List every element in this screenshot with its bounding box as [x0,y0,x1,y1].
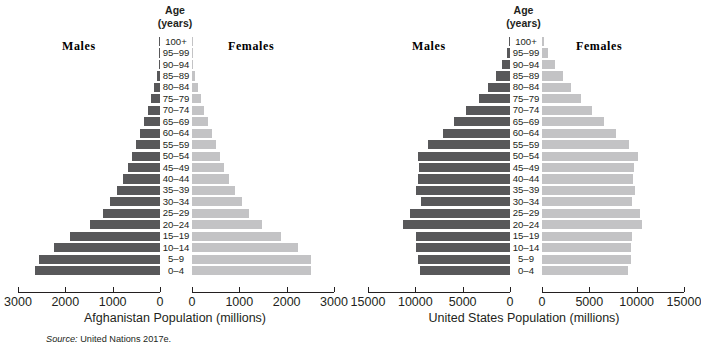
x-tick-label-right-2000: 2000 [273,295,301,309]
bar-male-25-29 [103,209,160,218]
bar-male-0-4 [420,266,510,275]
bar-male-35-39 [416,186,510,195]
bar-male-5-9 [39,255,160,264]
pyramid-row: 90–94 [350,59,697,70]
pyramid-row: 90–94 [0,59,350,70]
x-axis-title-united-states: United States Population (millions) [428,311,619,325]
age-group-label: 65–69 [513,116,540,128]
bar-male-40-44 [123,174,160,183]
x-tick [287,287,288,292]
bar-female-70-74 [542,106,592,115]
age-group-label: 70–74 [513,104,540,116]
pyramid-row: 20–24 [350,219,697,230]
x-tick-label-left-15000: 15000 [351,295,386,309]
x-tick-label-left-1000: 1000 [99,295,127,309]
age-group-label: 75–79 [513,93,540,105]
age-group-label: 25–29 [513,207,540,219]
age-group-label: 90–94 [513,59,540,71]
age-group-label: 80–84 [163,81,190,93]
age-group-label: 85–89 [163,70,190,82]
pyramid-row: 35–39 [350,185,697,196]
x-tick-label-right-0: 0 [539,295,546,309]
bar-male-100+ [159,37,160,46]
age-group-label: 100+ [165,36,187,48]
age-group-label: 5–9 [168,253,184,265]
age-group-label: 70–74 [163,104,190,116]
pyramid-row: 65–69 [0,116,350,127]
bar-female-25-29 [192,209,249,218]
pyramid-row: 60–64 [350,128,697,139]
age-group-label: 100+ [515,36,537,48]
pyramid-row: 85–89 [0,70,350,81]
bar-female-0-4 [542,266,628,275]
x-tick-label-right-1000: 1000 [225,295,253,309]
x-tick [192,287,193,292]
x-tick-label-right-3000: 3000 [320,295,348,309]
bar-female-50-54 [542,152,638,161]
bar-male-90-94 [502,60,510,69]
bar-male-45-49 [419,163,510,172]
bar-male-50-54 [132,152,160,161]
pyramid-row: 5–9 [0,254,350,265]
bar-male-50-54 [418,152,510,161]
bar-female-45-49 [542,163,634,172]
bar-male-40-44 [418,174,510,183]
bar-male-70-74 [466,106,510,115]
x-tick [65,287,66,292]
pyramid-row: 50–54 [350,151,697,162]
age-group-label: 90–94 [163,59,190,71]
bar-male-70-74 [148,106,160,115]
x-axis-right-united-states [542,292,684,293]
age-group-label: 65–69 [163,116,190,128]
pyramid-row: 50–54 [0,151,350,162]
bar-male-85-89 [157,71,160,80]
age-group-label: 0–4 [168,265,184,277]
age-group-label: 35–39 [163,184,190,196]
bar-female-50-54 [192,152,220,161]
pyramid-row: 30–34 [350,196,697,207]
pyramid-row: 75–79 [350,93,697,104]
age-group-label: 15–19 [163,230,190,242]
bar-male-35-39 [117,186,160,195]
bar-female-65-69 [192,117,208,126]
bar-female-85-89 [192,71,195,80]
pyramid-row: 15–19 [0,231,350,242]
bar-male-10-14 [416,243,510,252]
age-group-label: 40–44 [163,173,190,185]
bar-male-25-29 [410,209,510,218]
x-tick-label-right-15000: 15000 [667,295,701,309]
age-group-label: 60–64 [163,127,190,139]
bar-female-30-34 [192,197,242,206]
bar-male-65-69 [454,117,510,126]
pyramid-row: 60–64 [0,128,350,139]
bar-female-60-64 [542,129,616,138]
bar-female-20-24 [192,220,262,229]
bar-male-30-34 [110,197,160,206]
pyramid-row: 100+ [350,36,697,47]
age-group-label: 45–49 [163,162,190,174]
bar-male-60-64 [140,129,160,138]
bar-female-90-94 [192,60,193,69]
age-group-label: 80–84 [513,81,540,93]
x-tick [113,287,114,292]
pyramid-row: 75–79 [0,93,350,104]
bar-female-35-39 [192,186,235,195]
x-tick-label-left-0: 0 [507,295,514,309]
x-tick [463,287,464,292]
x-tick [542,287,543,292]
age-group-label: 85–89 [513,70,540,82]
x-tick-label-left-0: 0 [157,295,164,309]
x-tick [684,287,685,292]
pyramid-row: 10–14 [350,242,697,253]
pyramid-rows-united-states: 100+95–9990–9485–8980–8475–7970–7465–696… [350,0,697,326]
age-group-label: 60–64 [513,127,540,139]
age-group-label: 20–24 [513,219,540,231]
x-axis-left-united-states [368,292,510,293]
bar-male-80-84 [154,83,160,92]
pyramid-row: 65–69 [350,116,697,127]
bar-male-30-34 [421,197,510,206]
bar-female-100+ [542,37,544,46]
x-tick [18,287,19,292]
pyramid-row: 95–99 [350,47,697,58]
source-note-prefix: Source: [46,334,78,344]
